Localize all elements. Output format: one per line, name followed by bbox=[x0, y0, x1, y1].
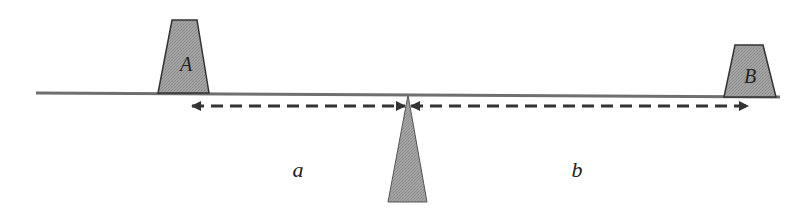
block-a-label: A bbox=[180, 53, 192, 76]
distance-a-label: a bbox=[293, 157, 304, 183]
block-b-label: B bbox=[744, 65, 756, 88]
lever-beam bbox=[36, 93, 780, 97]
lever-diagram bbox=[0, 0, 810, 212]
distance-b-label: b bbox=[572, 157, 583, 183]
fulcrum-triangle bbox=[388, 95, 427, 202]
